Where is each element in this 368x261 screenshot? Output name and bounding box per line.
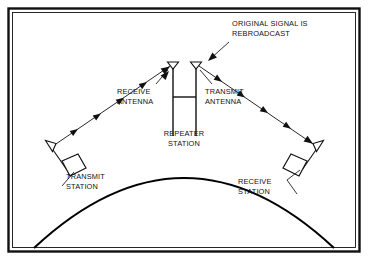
receive-station-label-line1: RECEIVE — [238, 177, 272, 186]
rebroadcast-label-line2: REBROADCAST — [232, 29, 290, 38]
receive-station-label-line2: STATION — [238, 187, 270, 196]
repeater-station-label-line1: REPEATER — [164, 129, 205, 138]
rebroadcast-label-line1: ORIGINAL SIGNAL IS — [232, 19, 308, 28]
transmit-antenna-label-line1: TRANSMIT — [205, 87, 244, 96]
transmit-station-label-line2: STATION — [66, 182, 98, 191]
receive-antenna-label-line1: RECEIVE — [117, 87, 151, 96]
transmit-station-label-line1: TRANSMIT — [66, 172, 105, 181]
repeater-station-label-line2: STATION — [168, 139, 200, 148]
repeater-station-diagram: ORIGINAL SIGNAL IS REBROADCAST RECEIVE A… — [0, 0, 368, 261]
receive-antenna-label-line2: ANTENNA — [117, 97, 153, 106]
transmit-antenna-label-line2: ANTENNA — [205, 97, 241, 106]
diagram-container: ORIGINAL SIGNAL IS REBROADCAST RECEIVE A… — [0, 0, 368, 261]
